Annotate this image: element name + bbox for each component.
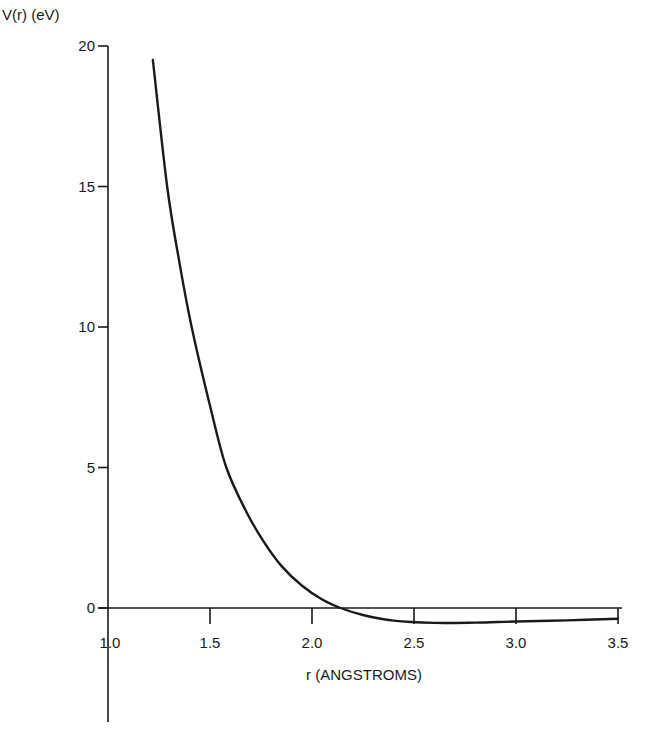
y-tick-label: 5	[87, 459, 95, 476]
x-tick-label: 1.5	[200, 634, 221, 651]
y-tick-label: 10	[78, 318, 95, 335]
x-tick-label: 1.0	[100, 634, 121, 651]
y-ticks: 05101520	[78, 37, 108, 616]
y-tick-label: 20	[78, 37, 95, 54]
x-tick-label: 2.5	[404, 634, 425, 651]
x-tick-label: 3.0	[506, 634, 527, 651]
chart: V(r) (eV) r (ANGSTROMS) 05101520 1.01.52…	[0, 0, 648, 736]
y-axis-label: V(r) (eV)	[2, 6, 60, 23]
x-tick-label: 2.0	[302, 634, 323, 651]
potential-curve	[153, 60, 618, 623]
x-axis-label: r (ANGSTROMS)	[306, 666, 422, 683]
y-tick-label: 15	[78, 178, 95, 195]
y-tick-label: 0	[87, 599, 95, 616]
x-tick-label: 3.5	[608, 634, 629, 651]
